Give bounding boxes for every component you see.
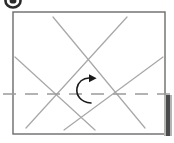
figure-canvas: Folding diagram	[0, 0, 174, 143]
right-edge-bar	[164, 95, 172, 136]
folding-diagram	[0, 0, 174, 143]
right-edge-bar-core	[166, 95, 170, 136]
